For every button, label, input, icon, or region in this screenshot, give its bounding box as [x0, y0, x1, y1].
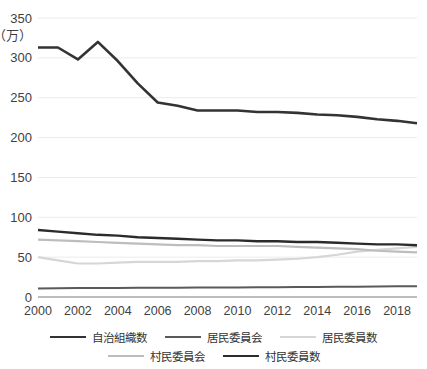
y-axis-unit-label-text: （万）: [0, 28, 32, 43]
x-tick-label: 2002: [64, 304, 92, 318]
legend-line-swatch-icon: [223, 355, 259, 357]
legend-row: 自治組織数居民委員会居民委員数: [0, 327, 427, 346]
x-tick-label: 2004: [104, 304, 132, 318]
x-tick-label: 2018: [383, 304, 411, 318]
legend-row: 村民委員会村民委員数: [0, 346, 427, 365]
x-tick-label: 2012: [263, 304, 291, 318]
series-line-自治組織数: [38, 42, 417, 123]
legend-item-村民委員数[interactable]: 村民委員数: [223, 348, 320, 364]
y-tick-label: 100: [10, 210, 32, 225]
grid-lines: [38, 18, 417, 257]
line-chart-plot: 050100150200250300350 （万） 20002002200420…: [0, 0, 427, 369]
legend-item-居民委員会[interactable]: 居民委員会: [165, 329, 262, 345]
legend-line-swatch-icon: [280, 336, 316, 338]
x-tick-label: 2000: [24, 304, 52, 318]
legend-label: 村民委員数: [265, 348, 320, 364]
legend-label: 居民委員会: [207, 329, 262, 345]
chart-legend: 自治組織数居民委員会居民委員数村民委員会村民委員数: [0, 327, 427, 369]
legend-label: 村民委員会: [150, 348, 205, 364]
y-tick-label: 200: [10, 130, 32, 145]
legend-line-swatch-icon: [108, 355, 144, 357]
legend-item-居民委員数[interactable]: 居民委員数: [280, 329, 377, 345]
y-tick-label: 0: [25, 290, 32, 305]
y-tick-label: 250: [10, 90, 32, 105]
y-tick-label: 350: [10, 11, 32, 26]
legend-label: 自治組織数: [92, 329, 147, 345]
x-tick-label: 2010: [224, 304, 252, 318]
x-tick-label: 2014: [303, 304, 331, 318]
legend-line-swatch-icon: [50, 336, 86, 338]
chart-container: 050100150200250300350 （万） 20002002200420…: [0, 0, 427, 369]
legend-label: 居民委員数: [322, 329, 377, 345]
legend-item-村民委員会[interactable]: 村民委員会: [108, 348, 205, 364]
legend-item-自治組織数[interactable]: 自治組織数: [50, 329, 147, 345]
legend-line-swatch-icon: [165, 336, 201, 338]
y-tick-label: 300: [10, 50, 32, 65]
y-axis-unit-label: （万）: [0, 28, 32, 43]
x-tick-label: 2006: [144, 304, 172, 318]
series-line-居民委員会: [38, 286, 417, 288]
x-tick-label: 2016: [343, 304, 371, 318]
data-series-lines: [38, 42, 417, 288]
x-tick-label: 2008: [184, 304, 212, 318]
y-tick-label: 50: [18, 250, 32, 265]
y-tick-label: 150: [10, 170, 32, 185]
x-axis-tick-labels: 2000200220042006200820102012201420162018: [24, 304, 411, 318]
y-axis-tick-labels: 050100150200250300350: [10, 11, 32, 305]
